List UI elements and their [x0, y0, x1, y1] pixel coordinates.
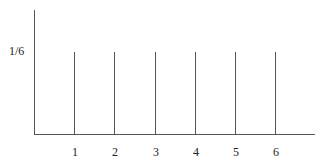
bar-2 — [114, 52, 115, 134]
x-tick-label-3: 3 — [153, 145, 159, 159]
probability-mass-chart: 1/6 123456 — [0, 0, 328, 166]
x-tick-label-4: 4 — [193, 145, 199, 159]
bar-3 — [155, 52, 156, 134]
x-tick-label-5: 5 — [233, 145, 239, 159]
x-axis — [34, 134, 315, 135]
x-tick-label-1: 1 — [72, 145, 78, 159]
bar-6 — [275, 52, 276, 134]
y-axis — [34, 10, 35, 135]
bar-4 — [195, 52, 196, 134]
bar-5 — [235, 52, 236, 134]
x-tick-label-2: 2 — [112, 145, 118, 159]
y-tick-label: 1/6 — [9, 44, 24, 58]
x-tick-label-6: 6 — [273, 145, 279, 159]
bar-1 — [74, 52, 75, 134]
